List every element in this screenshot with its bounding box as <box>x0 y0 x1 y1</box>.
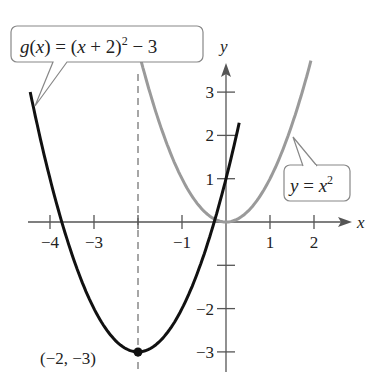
y-tick-label: −2 <box>196 300 214 319</box>
g-label: g(x) = (x + 2)2 − 3 <box>20 34 157 58</box>
f-callout-pointer <box>293 137 317 166</box>
x-axis-label: x <box>356 213 365 232</box>
vertex-point <box>134 348 143 357</box>
y-tick-label: 3 <box>206 83 215 102</box>
x-tick-label: −3 <box>85 233 103 252</box>
x-tick-label: 2 <box>310 233 319 252</box>
x-tick-label: −1 <box>173 233 191 252</box>
f-label: y = x2 <box>288 173 333 196</box>
y-tick-label: 2 <box>206 126 215 145</box>
x-ticks: −4−3−112 <box>41 215 318 252</box>
y-axis-label: y <box>218 37 228 56</box>
y-tick-label: −3 <box>196 343 214 362</box>
vertex-label: (−2, −3) <box>40 349 96 368</box>
graph: −4−3−112 321−2−3 (−2, −3) x y g(x) = (x … <box>0 0 378 384</box>
y-tick-label: 1 <box>206 170 215 189</box>
x-tick-label: 1 <box>266 233 275 252</box>
x-tick-label: −4 <box>41 233 60 252</box>
